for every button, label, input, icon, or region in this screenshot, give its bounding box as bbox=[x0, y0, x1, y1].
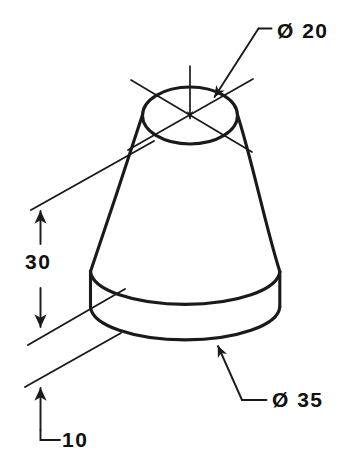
cone-base-front-arc bbox=[91, 272, 280, 305]
dimension-leader-10 bbox=[41, 430, 61, 440]
leader-arrow-top-diameter bbox=[215, 29, 259, 98]
dimension-label-bottom-diameter: Ø 35 bbox=[272, 388, 324, 412]
dimension-label-base-height: 10 bbox=[62, 428, 88, 452]
extension-line-base-bottom bbox=[25, 333, 121, 387]
leader-arrow-bottom-diameter bbox=[218, 346, 242, 400]
extension-line-cone-bottom bbox=[28, 289, 125, 345]
dimension-label-top-diameter: Ø 20 bbox=[277, 19, 329, 43]
cone-right-edge bbox=[237, 115, 279, 272]
drawing-canvas: Ø 20 Ø 35 30 10 bbox=[0, 0, 353, 464]
dimension-label-cone-height: 30 bbox=[25, 250, 51, 274]
extension-line-cone-top bbox=[31, 141, 154, 210]
cone-left-edge bbox=[91, 115, 143, 272]
